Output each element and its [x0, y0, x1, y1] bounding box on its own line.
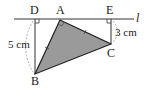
label-d: D — [30, 3, 39, 17]
label-e: E — [106, 3, 113, 17]
label-l: l — [136, 11, 140, 25]
triangle-abc — [35, 20, 111, 74]
label-b: B — [31, 74, 39, 88]
measurement-bd: 5 cm — [8, 38, 30, 50]
right-angle-e-icon — [107, 19, 111, 23]
label-c: C — [107, 46, 115, 60]
label-a: A — [56, 3, 65, 17]
measurement-ce: 3 cm — [115, 26, 137, 38]
right-angle-d-icon — [35, 19, 39, 23]
geometry-diagram: D A E l 3 cm C 5 cm B — [0, 0, 148, 89]
